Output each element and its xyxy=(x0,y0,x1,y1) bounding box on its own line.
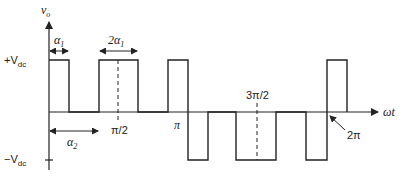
two-alpha1-label: 2α1 xyxy=(108,33,124,49)
three-pi-over-2-label: 3π/2 xyxy=(246,89,269,101)
pi-label: π xyxy=(174,118,181,132)
y-axis-label: vo xyxy=(41,3,50,19)
alpha1-label: α1 xyxy=(54,33,64,49)
negative-level-label: −Vdc xyxy=(4,153,26,168)
waveform-diagram: vo ωt +Vdc −Vdc α1 2α1 α2 π/2 π 3π/2 2π xyxy=(0,0,410,177)
two-pi-leader-arrow xyxy=(330,116,345,130)
pi-over-2-label: π/2 xyxy=(111,124,128,136)
positive-level-label: +Vdc xyxy=(4,54,26,69)
alpha2-label: α2 xyxy=(67,135,77,151)
x-axis-label: ωt xyxy=(383,105,395,119)
two-pi-label: 2π xyxy=(347,129,361,141)
output-voltage-waveform xyxy=(49,60,347,160)
